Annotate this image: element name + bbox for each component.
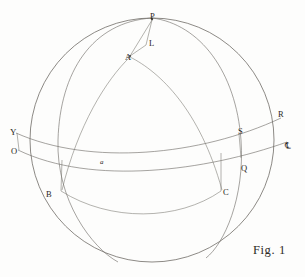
chord-a-l (130, 45, 146, 56)
label-point-o: O (11, 147, 17, 156)
meridian-left-limb-arc (58, 18, 152, 262)
lower-parallel-bc-arc (61, 191, 221, 214)
label-pole-p: P (150, 12, 155, 21)
label-point-s: S (238, 127, 243, 136)
figure-container: P L A Υ O a R S ℄ Q B C Fig. 1 (0, 0, 305, 277)
label-point-lowercase-a: a (100, 159, 104, 166)
label-point-q: Q (241, 164, 247, 173)
hour-circle-a-c-arc (130, 57, 222, 190)
label-point-r: R (278, 110, 284, 119)
label-point-c: C (223, 188, 229, 197)
label-point-b: B (46, 190, 52, 199)
celestial-sphere-outline (30, 18, 274, 262)
label-autumnal-equinox-libra: ℄ (285, 142, 291, 151)
label-point-a: A (125, 53, 131, 62)
figure-caption: Fig. 1 (253, 243, 286, 258)
label-vernal-equinox-aries: Υ (10, 128, 17, 137)
label-point-l: L (149, 39, 154, 48)
